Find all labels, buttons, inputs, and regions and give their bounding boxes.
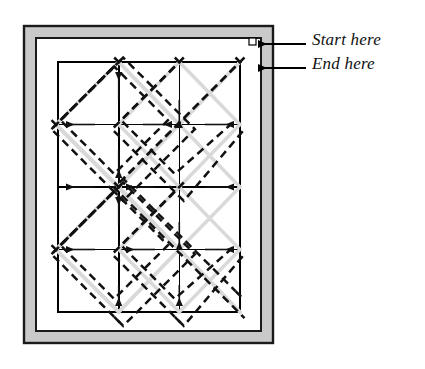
end-here-label: End here <box>312 54 375 74</box>
figure-root: Start here End here <box>0 0 425 369</box>
start-point-marker <box>249 38 256 45</box>
start-here-label: Start here <box>312 30 381 50</box>
